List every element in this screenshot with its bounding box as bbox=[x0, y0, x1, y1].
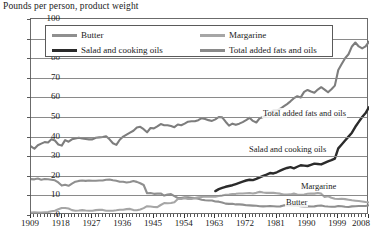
x-tick-minor bbox=[102, 214, 103, 217]
x-tick-minor bbox=[225, 214, 226, 217]
x-tick-minor bbox=[341, 214, 342, 217]
y-tick-mark bbox=[27, 156, 31, 157]
x-tick-minor bbox=[129, 214, 130, 217]
x-tick-minor bbox=[238, 214, 239, 217]
y-tick-mark bbox=[27, 97, 31, 98]
x-tick-minor bbox=[88, 214, 89, 217]
x-tick-minor bbox=[283, 214, 284, 217]
x-tick-minor bbox=[201, 214, 202, 217]
x-tick-minor bbox=[180, 214, 181, 217]
x-tick-minor bbox=[139, 214, 140, 217]
x-tick-minor bbox=[330, 214, 331, 217]
x-tick-minor bbox=[228, 214, 229, 217]
x-tick-minor bbox=[252, 214, 253, 217]
y-tick-label: 60 bbox=[36, 92, 60, 100]
y-tick-mark bbox=[27, 137, 31, 138]
x-tick-minor bbox=[119, 214, 120, 217]
x-tick-minor bbox=[300, 214, 301, 217]
x-tick-minor bbox=[190, 214, 191, 217]
y-tick-label: 10 bbox=[36, 190, 60, 198]
y-tick-label: 40 bbox=[36, 132, 60, 140]
x-tick-minor bbox=[81, 214, 82, 217]
x-tick-minor bbox=[289, 214, 290, 217]
chart-title: Pounds per person, product weight bbox=[3, 1, 139, 11]
x-tick-minor bbox=[334, 214, 335, 217]
gridline bbox=[31, 97, 367, 98]
x-tick-minor bbox=[112, 214, 113, 217]
legend-item: Total added fats and oils bbox=[194, 42, 317, 58]
y-tick-label: 50 bbox=[36, 112, 60, 120]
x-tick-minor bbox=[170, 214, 171, 217]
x-tick-minor bbox=[85, 214, 86, 217]
x-tick-minor bbox=[143, 214, 144, 217]
x-tick-label: 1945 bbox=[144, 218, 162, 228]
x-tick-label: 1954 bbox=[175, 218, 193, 228]
y-tick-mark bbox=[27, 195, 31, 196]
x-tick-minor bbox=[354, 214, 355, 217]
y-tick-mark bbox=[27, 19, 31, 20]
x-tick-minor bbox=[173, 214, 174, 217]
x-tick-minor bbox=[204, 214, 205, 217]
legend-label: Margarine bbox=[229, 31, 266, 40]
x-tick-minor bbox=[109, 214, 110, 217]
x-tick-label: 1963 bbox=[205, 218, 223, 228]
series-annotation: Butter bbox=[285, 197, 308, 207]
y-tick-label: 30 bbox=[36, 151, 60, 159]
legend-swatch bbox=[52, 34, 77, 37]
legend-swatch bbox=[52, 49, 77, 52]
x-tick-label: 1918 bbox=[52, 218, 70, 228]
x-tick-minor bbox=[33, 214, 34, 217]
x-tick-minor bbox=[242, 214, 243, 217]
y-tick-mark bbox=[27, 78, 31, 79]
x-tick-minor bbox=[115, 214, 116, 217]
x-tick-minor bbox=[105, 214, 106, 217]
x-tick-minor bbox=[74, 214, 75, 217]
x-tick-minor bbox=[167, 214, 168, 217]
x-tick-minor bbox=[218, 214, 219, 217]
gridline bbox=[31, 156, 367, 157]
x-tick-minor bbox=[68, 214, 69, 217]
x-tick-minor bbox=[286, 214, 287, 217]
x-tick-minor bbox=[303, 214, 304, 217]
x-tick-minor bbox=[358, 214, 359, 217]
y-tick-mark bbox=[27, 176, 31, 177]
gridline bbox=[31, 58, 367, 59]
x-tick-minor bbox=[317, 214, 318, 217]
series-annotation: Salad and cooking oils bbox=[248, 144, 327, 154]
x-tick-minor bbox=[269, 214, 270, 217]
x-tick-minor bbox=[348, 214, 349, 217]
x-tick-minor bbox=[208, 214, 209, 217]
x-tick-minor bbox=[293, 214, 294, 217]
x-tick-minor bbox=[351, 214, 352, 217]
x-tick-minor bbox=[98, 214, 99, 217]
x-tick-minor bbox=[136, 214, 137, 217]
x-tick-minor bbox=[177, 214, 178, 217]
x-tick-label: 1999 bbox=[328, 218, 346, 228]
x-tick-minor bbox=[197, 214, 198, 217]
x-tick-minor bbox=[71, 214, 72, 217]
x-tick-minor bbox=[262, 214, 263, 217]
legend-item: Salad and cooking oils bbox=[46, 42, 163, 58]
x-tick-minor bbox=[266, 214, 267, 217]
x-tick-minor bbox=[324, 214, 325, 217]
x-tick-label: 1909 bbox=[21, 218, 39, 228]
x-tick-minor bbox=[221, 214, 222, 217]
x-tick-minor bbox=[163, 214, 164, 217]
x-axis-ticks bbox=[30, 214, 368, 218]
x-tick-label: 1927 bbox=[82, 218, 100, 228]
y-tick-mark bbox=[27, 58, 31, 59]
y-tick-label: 70 bbox=[36, 73, 60, 81]
x-tick-label: 1990 bbox=[298, 218, 316, 228]
legend-swatch bbox=[200, 34, 225, 37]
y-tick-label: 0 bbox=[36, 210, 60, 218]
gridline bbox=[31, 78, 367, 79]
y-tick-mark bbox=[27, 39, 31, 40]
legend-label: Salad and cooking oils bbox=[81, 46, 163, 55]
y-tick-label: 100 bbox=[36, 14, 60, 22]
x-tick-minor bbox=[64, 214, 65, 217]
gridline bbox=[31, 137, 367, 138]
x-tick-minor bbox=[156, 214, 157, 217]
x-tick-minor bbox=[310, 214, 311, 217]
x-tick-minor bbox=[146, 214, 147, 217]
x-tick-minor bbox=[361, 214, 362, 217]
